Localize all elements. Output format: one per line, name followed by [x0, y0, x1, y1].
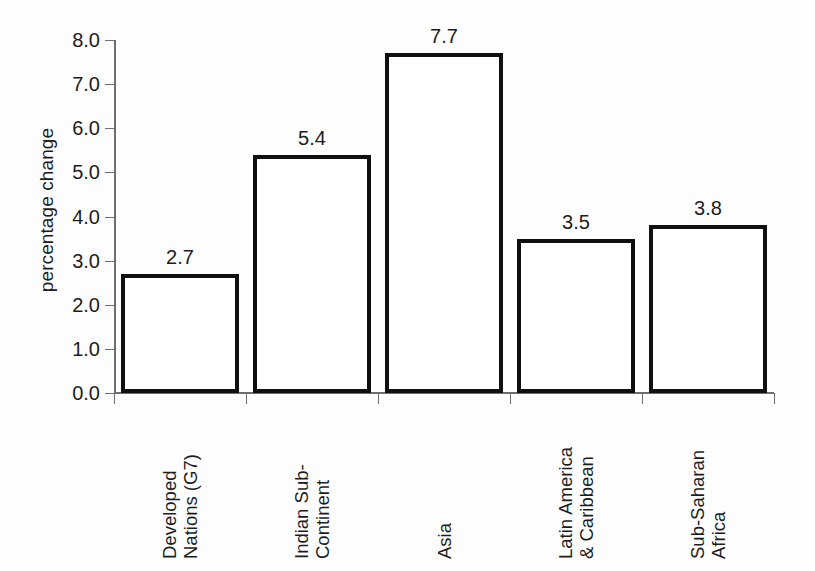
y-axis-tick-label: 8.0: [38, 30, 100, 50]
y-axis-tick-label: 4.0: [38, 207, 100, 227]
x-axis-tick-mark: [246, 393, 247, 404]
x-axis-category-label-line: Nations (G7): [180, 409, 201, 559]
bar-value-label: 5.4: [253, 128, 371, 148]
y-axis-tick-label-text: 8.0: [44, 30, 100, 50]
x-axis-category-label-line: Continent: [312, 409, 333, 559]
y-axis-tick-mark: [105, 84, 115, 85]
y-axis-tick-label: 3.0: [38, 251, 100, 271]
y-axis-tick-label-text: 3.0: [44, 251, 100, 271]
y-axis-tick-label-text: 5.0: [44, 162, 100, 182]
y-axis-tick-mark: [105, 217, 115, 218]
y-axis-tick-label-text: 6.0: [44, 118, 100, 138]
x-axis-category-label-line: Africa: [708, 409, 729, 559]
bar-value-label: 3.8: [649, 198, 767, 218]
x-axis-category-label: Asia: [434, 409, 455, 559]
x-axis-tick-mark: [642, 393, 643, 404]
y-axis-tick-label: 6.0: [38, 118, 100, 138]
x-axis-category-label-line: & Caribbean: [576, 409, 597, 559]
x-axis-category-label-line: Sub-Saharan: [687, 409, 708, 559]
bar-value-label: 3.5: [517, 212, 635, 232]
bar[interactable]: [649, 225, 767, 393]
x-axis-category-label-line: Indian Sub-: [291, 409, 312, 559]
y-axis-tick-label-text: 4.0: [44, 207, 100, 227]
y-axis-tick-mark: [105, 349, 115, 350]
x-axis-category-label-line: Latin America: [555, 409, 576, 559]
y-axis-tick-label: 1.0: [38, 339, 100, 359]
y-axis-tick-label: 2.0: [38, 295, 100, 315]
bar-value-label: 7.7: [385, 26, 503, 46]
x-axis-category-label: Sub-SaharanAfrica: [687, 409, 729, 559]
y-axis-tick-label-text: 2.0: [44, 295, 100, 315]
x-axis-category-label: Latin America& Caribbean: [555, 409, 597, 559]
bar-value-label: 2.7: [121, 247, 239, 267]
bar[interactable]: [385, 53, 503, 393]
x-axis-category-label-line: Asia: [434, 409, 455, 559]
y-axis-tick-label-text: 7.0: [44, 74, 100, 94]
x-axis-category-label: DevelopedNations (G7): [159, 409, 201, 559]
y-axis-tick-mark: [105, 305, 115, 306]
y-axis-tick-mark: [105, 128, 115, 129]
y-axis-tick-label: 0.0: [38, 383, 100, 403]
y-axis-tick-label: 7.0: [38, 74, 100, 94]
x-axis-tick-mark: [378, 393, 379, 404]
y-axis-tick-label-text: 1.0: [44, 339, 100, 359]
bar[interactable]: [121, 274, 239, 393]
y-axis-tick-mark: [105, 172, 115, 173]
y-axis-tick-mark: [105, 261, 115, 262]
bar[interactable]: [253, 155, 371, 393]
bar[interactable]: [517, 239, 635, 393]
x-axis-tick-mark: [774, 393, 775, 404]
x-axis-tick-mark: [114, 393, 115, 404]
y-axis-tick-label: 5.0: [38, 162, 100, 182]
y-axis-tick-label-text: 0.0: [44, 383, 100, 403]
y-axis-tick-mark: [105, 40, 115, 41]
bar-chart-figure: percentage change 0.01.02.03.04.05.06.07…: [0, 0, 815, 571]
x-axis-category-label-line: Developed: [159, 409, 180, 559]
x-axis-category-label: Indian Sub-Continent: [291, 409, 333, 559]
x-axis-tick-mark: [510, 393, 511, 404]
